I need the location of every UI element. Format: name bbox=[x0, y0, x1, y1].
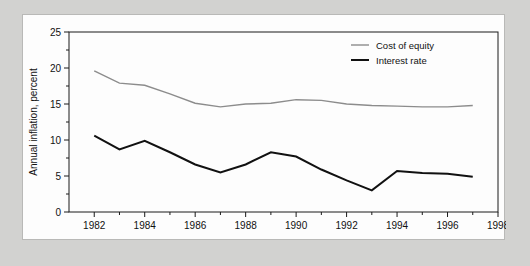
figure-panel: 0510152025198219841986198819901992199419… bbox=[22, 14, 505, 240]
x-tick-label: 1998 bbox=[487, 220, 506, 231]
screenshot-root: 0510152025198219841986198819901992199419… bbox=[0, 0, 530, 266]
legend-label-1: Cost of equity bbox=[376, 40, 434, 51]
plot-frame bbox=[69, 32, 498, 212]
y-tick-label: 0 bbox=[55, 207, 61, 218]
x-tick-label: 1996 bbox=[436, 220, 459, 231]
x-tick-label: 1988 bbox=[235, 220, 258, 231]
y-tick-label: 10 bbox=[50, 135, 62, 146]
line-chart: 0510152025198219841986198819901992199419… bbox=[23, 15, 506, 241]
y-tick-label: 15 bbox=[50, 99, 62, 110]
y-tick-label: 20 bbox=[50, 63, 62, 74]
x-tick-label: 1986 bbox=[184, 220, 207, 231]
series-line-2 bbox=[94, 136, 473, 191]
x-tick-label: 1994 bbox=[386, 220, 409, 231]
y-axis-title: Annual inflation, percent bbox=[28, 68, 39, 176]
x-tick-label: 1990 bbox=[285, 220, 308, 231]
x-tick-label: 1982 bbox=[83, 220, 106, 231]
x-tick-label: 1992 bbox=[335, 220, 358, 231]
y-tick-label: 25 bbox=[50, 27, 62, 38]
x-tick-label: 1984 bbox=[134, 220, 157, 231]
y-tick-label: 5 bbox=[55, 171, 61, 182]
series-line-1 bbox=[94, 71, 473, 107]
legend-label-2: Interest rate bbox=[376, 55, 427, 66]
